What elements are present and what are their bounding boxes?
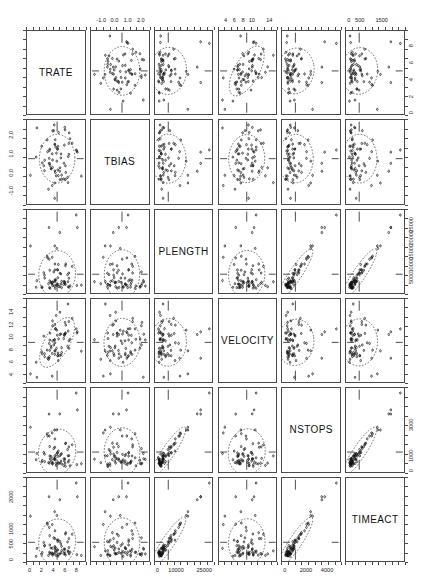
data-point xyxy=(139,338,141,340)
data-point xyxy=(170,163,172,165)
axis-tick xyxy=(23,326,26,327)
data-point xyxy=(143,59,145,61)
data-point xyxy=(69,138,71,140)
data-point xyxy=(57,549,59,551)
data-point xyxy=(53,270,55,272)
data-point xyxy=(124,455,126,457)
axis-tick xyxy=(277,562,278,565)
data-point xyxy=(380,429,382,431)
data-point xyxy=(321,66,323,68)
axis-tick xyxy=(405,285,408,286)
x-tick-label-trate: 2 xyxy=(40,568,43,574)
data-point xyxy=(237,279,239,281)
axis-tick xyxy=(405,167,408,168)
data-point xyxy=(140,76,142,78)
data-point xyxy=(52,284,54,286)
data-point xyxy=(112,498,114,500)
data-point xyxy=(132,265,134,267)
data-point xyxy=(174,342,176,344)
data-point xyxy=(35,459,37,461)
y-tick-label-timeact: 1000 xyxy=(9,522,15,534)
data-point xyxy=(253,495,255,497)
data-point xyxy=(312,108,314,110)
data-point xyxy=(292,69,294,71)
data-point xyxy=(51,547,53,549)
data-point xyxy=(292,148,294,150)
data-point xyxy=(287,311,289,313)
data-point xyxy=(240,80,242,82)
data-point xyxy=(54,339,56,341)
data-point xyxy=(143,333,145,335)
data-point xyxy=(292,143,294,145)
y-tick-label-trate: 8 xyxy=(409,45,415,48)
data-point xyxy=(43,541,45,543)
data-point xyxy=(68,143,70,145)
data-point xyxy=(170,349,172,351)
data-point xyxy=(162,182,164,184)
scatter-canvas xyxy=(155,31,213,114)
axis-tick xyxy=(244,27,245,30)
data-point xyxy=(196,66,198,68)
data-point xyxy=(324,41,326,43)
splom-cell-trate-vs-nstops xyxy=(26,387,86,472)
data-point xyxy=(236,159,238,161)
data-point xyxy=(292,303,294,305)
scatter-canvas xyxy=(282,210,340,293)
data-point xyxy=(109,35,111,37)
axis-tick xyxy=(405,345,408,346)
data-point xyxy=(200,495,202,497)
data-point xyxy=(144,339,146,341)
data-point xyxy=(255,139,257,141)
data-point xyxy=(122,555,124,557)
data-point xyxy=(54,429,56,431)
data-point xyxy=(111,72,113,74)
data-point xyxy=(356,355,358,357)
data-point xyxy=(360,263,362,265)
data-point xyxy=(170,540,172,542)
data-point xyxy=(141,448,143,450)
data-point xyxy=(131,455,133,457)
data-point xyxy=(126,357,128,359)
axis-tick xyxy=(33,27,34,30)
x-tick-label-trate: 6 xyxy=(63,568,66,574)
data-point xyxy=(240,163,242,165)
axis-tick xyxy=(23,473,26,474)
data-point xyxy=(122,64,124,66)
data-point xyxy=(251,548,253,550)
axis-tick xyxy=(66,27,67,30)
axis-tick xyxy=(405,515,408,516)
data-point xyxy=(163,350,165,352)
data-point xyxy=(54,438,56,440)
data-point xyxy=(107,58,109,60)
data-point xyxy=(126,523,128,525)
data-point xyxy=(308,523,310,525)
data-point xyxy=(161,358,163,360)
data-point xyxy=(236,286,238,288)
data-point xyxy=(61,347,63,349)
data-point xyxy=(163,172,165,174)
data-point xyxy=(104,350,106,352)
data-point xyxy=(110,63,112,65)
y-tick-label-plength: 20000 xyxy=(409,230,415,246)
data-point xyxy=(122,333,124,335)
data-point xyxy=(118,91,120,93)
splom-cell-nstops-vs-tbias xyxy=(281,119,341,204)
splom-cell-plength-vs-tbias xyxy=(154,119,214,204)
data-point xyxy=(287,321,289,323)
data-point xyxy=(48,413,50,415)
data-point xyxy=(264,284,266,286)
data-point xyxy=(221,279,223,281)
data-point xyxy=(126,284,128,286)
data-point xyxy=(285,551,287,553)
data-point xyxy=(178,526,180,528)
data-point xyxy=(44,353,46,355)
data-point xyxy=(292,540,294,542)
data-point xyxy=(116,287,118,289)
data-point xyxy=(259,58,261,60)
data-point xyxy=(106,354,108,356)
data-point xyxy=(306,523,308,525)
data-point xyxy=(162,303,164,305)
axis-tick xyxy=(23,383,26,384)
data-point xyxy=(290,361,292,363)
axis-tick xyxy=(385,562,386,565)
